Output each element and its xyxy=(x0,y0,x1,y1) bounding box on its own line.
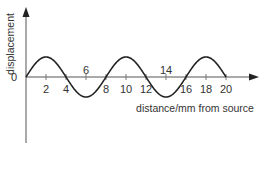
x-tick-label: 10 xyxy=(120,83,132,95)
x-axis-label: distance/mm from source xyxy=(136,102,254,114)
x-tick-label: 6 xyxy=(83,64,89,76)
x-tick-label: 14 xyxy=(160,64,172,76)
x-tick-label: 8 xyxy=(103,83,109,95)
wave-chart: 2481012161820614 0 displacement distance… xyxy=(0,0,267,177)
y-axis-label: displacement xyxy=(4,13,16,75)
x-tick-label: 18 xyxy=(200,83,212,95)
x-tick-label: 20 xyxy=(220,83,232,95)
x-tick-label: 2 xyxy=(43,83,49,95)
x-tick-label: 4 xyxy=(63,83,69,95)
x-tick-labels: 2481012161820614 xyxy=(43,64,232,95)
x-axis-arrow-icon xyxy=(249,74,259,81)
y-axis-arrow-icon xyxy=(23,7,30,17)
